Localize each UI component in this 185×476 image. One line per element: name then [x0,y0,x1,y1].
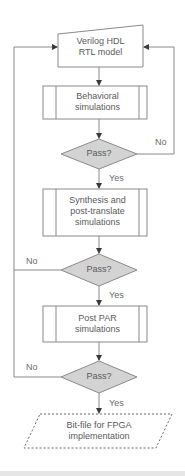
pass3-label: Pass? [74,371,124,382]
behavioral-label: Behavioral simulations [56,91,139,113]
bitfile-label: Bit-file for FPGA implementation [40,420,158,442]
edge-label-pass1-no: No [155,137,167,148]
post-par-label: Post PAR simulations [56,313,139,335]
pass2-label: Pass? [74,264,124,275]
edge-label-pass1-yes: Yes [109,173,124,184]
edge-label-pass3-no: No [26,362,38,373]
edge-label-pass3-yes: Yes [109,398,124,409]
rtl-model-label: Verilog HDL RTL model [58,36,143,58]
synthesis-label: Synthesis and post-translate simulations [56,195,139,228]
pass1-label: Pass? [74,148,124,159]
edge-label-pass2-yes: Yes [109,290,124,301]
edge-label-pass2-no: No [26,256,38,267]
flowchart-canvas [0,0,185,476]
bottom-band [0,471,185,476]
